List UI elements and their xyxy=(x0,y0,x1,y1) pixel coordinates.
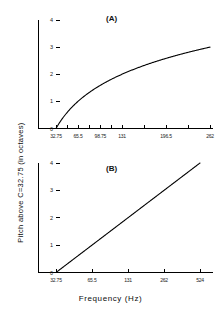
y-tick-label: 2 xyxy=(42,71,53,77)
x-tick-label: 131 xyxy=(118,133,126,139)
panel-a-x-ticks xyxy=(56,125,210,129)
x-tick-label: 32.75 xyxy=(50,133,62,139)
pitch-frequency-figure: (A) 32.7565.598.75131196.5262 01234 (B) … xyxy=(0,0,221,313)
y-tick-label: 4 xyxy=(42,160,53,166)
panel-a-label: (A) xyxy=(106,14,117,23)
x-tick-label: 131 xyxy=(124,277,132,283)
x-tick-label: 65.5 xyxy=(74,133,83,139)
x-tick-label: 32.75 xyxy=(50,277,62,283)
panel-b-y-ticks xyxy=(56,163,60,273)
y-tick-label: 1 xyxy=(42,98,53,104)
y-axis-title: Pitch above C=32.75 (in octaves) xyxy=(16,108,25,258)
panel-b-plot xyxy=(0,155,221,285)
x-axis-title: Frequency (Hz) xyxy=(0,294,221,303)
y-tick-label: 1 xyxy=(42,242,53,248)
y-tick-label: 2 xyxy=(42,215,53,221)
panel-a-data-curve xyxy=(56,47,210,128)
panel-b-label: (B) xyxy=(106,164,117,173)
x-tick-label: 196.5 xyxy=(160,133,172,139)
y-tick-label: 0 xyxy=(42,270,53,276)
y-tick-label: 3 xyxy=(42,187,53,193)
x-tick-label: 98.75 xyxy=(95,133,107,139)
panel-b-x-ticks xyxy=(56,269,200,273)
x-tick-label: 262 xyxy=(160,277,168,283)
x-tick-label: 262 xyxy=(206,133,214,139)
panel-b-data-curve xyxy=(56,163,200,273)
y-tick-label: 0 xyxy=(42,126,53,132)
x-tick-label: 65.5 xyxy=(88,277,97,283)
y-tick-label: 3 xyxy=(42,44,53,50)
panel-a-y-ticks xyxy=(56,20,60,129)
x-tick-label: 524 xyxy=(196,277,204,283)
y-tick-label: 4 xyxy=(42,17,53,23)
